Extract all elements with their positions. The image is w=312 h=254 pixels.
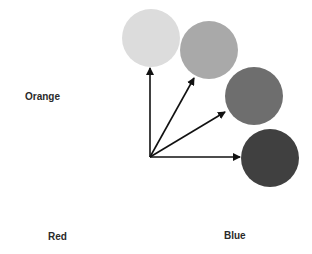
circles-group [122, 9, 299, 187]
circle-light [180, 21, 238, 79]
circle-lightest [122, 9, 180, 67]
diagram-canvas [0, 0, 312, 254]
label-blue: Blue [224, 231, 246, 241]
arrows-group [150, 68, 240, 157]
arrow-2 [150, 78, 194, 157]
arrow-3 [150, 112, 225, 157]
circle-dark [241, 129, 299, 187]
label-orange: Orange [25, 92, 60, 102]
label-red: Red [48, 232, 67, 242]
circle-medium [225, 67, 283, 125]
